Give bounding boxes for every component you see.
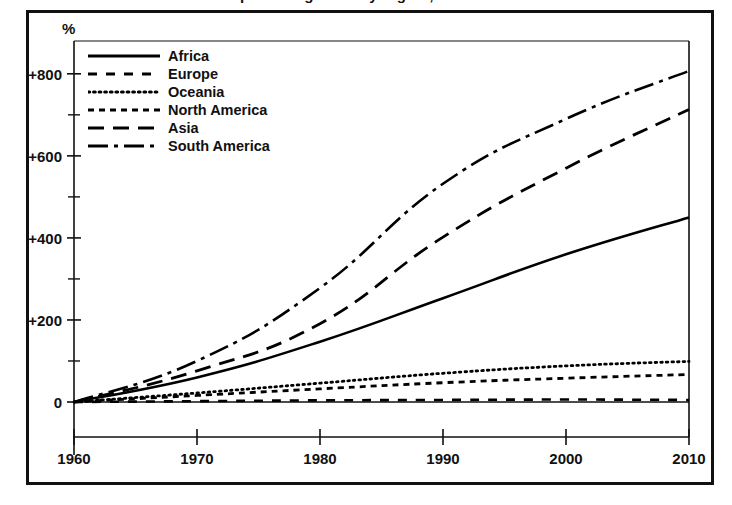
x-tick-label: 1990 — [426, 450, 459, 467]
dashed-long-line-swatch — [88, 121, 160, 135]
y-tick-label: +400 — [28, 229, 62, 246]
legend-label: Oceania — [168, 85, 224, 100]
series-line-africa — [74, 217, 689, 402]
legend-label: North America — [168, 103, 267, 118]
legend-item-oceania[interactable]: Oceania — [88, 83, 318, 101]
legend-item-africa[interactable]: Africa — [88, 47, 318, 65]
legend-item-north-america[interactable]: North America — [88, 101, 318, 119]
y-tick-label: +600 — [28, 147, 62, 164]
x-tick-label: 2010 — [672, 450, 705, 467]
legend-label: Asia — [168, 121, 199, 136]
legend-item-south-america[interactable]: South America — [88, 137, 318, 155]
line-chart: % 0+200+400+600+800 19601970198019902000… — [0, 0, 732, 505]
dashed-medium-line-swatch — [88, 67, 160, 81]
dotted-line-swatch — [88, 85, 160, 99]
dashed-short-line-swatch — [88, 103, 160, 117]
legend-label: Africa — [168, 49, 209, 64]
x-tick-label: 1980 — [303, 450, 336, 467]
y-tick-label: 0 — [54, 394, 62, 411]
legend-item-europe[interactable]: Europe — [88, 65, 318, 83]
dash-dot-line-swatch — [88, 139, 160, 153]
legend-label: Europe — [168, 67, 218, 82]
chart-legend: AfricaEuropeOceaniaNorth AmericaAsiaSout… — [88, 47, 318, 155]
legend-item-asia[interactable]: Asia — [88, 119, 318, 137]
x-tick-label: 1960 — [57, 450, 90, 467]
legend-label: South America — [168, 139, 270, 154]
solid-line-swatch — [88, 49, 160, 63]
y-axis-unit-label: % — [62, 20, 75, 37]
x-tick-label: 2000 — [549, 450, 582, 467]
x-tick-label: 1970 — [180, 450, 213, 467]
y-tick-label: +800 — [28, 65, 62, 82]
y-tick-label: +200 — [28, 311, 62, 328]
